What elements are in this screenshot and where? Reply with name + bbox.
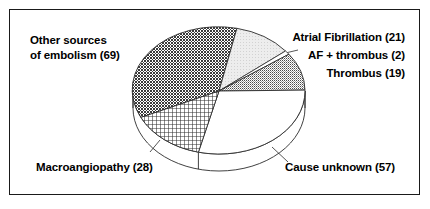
slice-label-atrial-fibrillation: Atrial Fibrillation (21) [292, 30, 405, 45]
slice-label-af-plus-thrombus: AF + thrombus (2) [308, 48, 405, 63]
chart-figure: Other sources of embolism (69) Atrial Fi… [0, 0, 430, 209]
pie-slices [132, 27, 305, 154]
slice-label-other-sources: Other sources of embolism (69) [30, 33, 120, 62]
slice-label-cause-unknown: Cause unknown (57) [285, 160, 395, 175]
slice-label-other-sources-line1: Other sources [30, 33, 120, 48]
slice-label-macroangiopathy: Macroangiopathy (28) [36, 160, 153, 175]
slice-label-thrombus: Thrombus (19) [326, 66, 405, 81]
leader-line-af-plus-thrombus [287, 50, 298, 53]
slice-label-other-sources-line2: of embolism (69) [30, 48, 120, 63]
